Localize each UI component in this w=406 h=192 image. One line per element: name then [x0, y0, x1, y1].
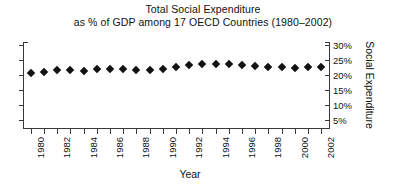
- data-point: [93, 65, 101, 73]
- data-point: [66, 66, 74, 74]
- x-axis-tick: [84, 129, 85, 134]
- data-point: [264, 62, 272, 70]
- data-point: [304, 63, 312, 71]
- x-axis-tick: [150, 129, 151, 134]
- data-point: [53, 66, 61, 74]
- y-axis-tick-label: 30%: [333, 40, 352, 51]
- y-axis-tick-label: 15%: [333, 85, 352, 96]
- x-axis-tick: [216, 129, 217, 134]
- x-axis-tick: [31, 129, 32, 134]
- data-point: [211, 59, 219, 67]
- x-axis-tick: [268, 129, 269, 134]
- x-axis-tick-label: 1990: [167, 137, 178, 158]
- x-axis-tick: [295, 129, 296, 134]
- data-point: [40, 67, 48, 75]
- data-point: [251, 62, 259, 70]
- data-point: [27, 69, 35, 77]
- x-axis-tick: [110, 129, 111, 134]
- data-point: [277, 63, 285, 71]
- chart-title-line-1: Total Social Expenditure: [0, 3, 406, 16]
- x-axis-tick-label: 1984: [88, 137, 99, 158]
- x-axis-tick: [202, 129, 203, 134]
- x-axis-title: Year: [0, 168, 380, 180]
- chart-figure: Total Social Expenditure as % of GDP amo…: [0, 0, 406, 192]
- y-axis-tick-label: 10%: [333, 100, 352, 111]
- data-point: [145, 66, 153, 74]
- x-axis-tick-label: 1998: [272, 137, 283, 158]
- data-point: [238, 61, 246, 69]
- data-point: [198, 60, 206, 68]
- data-point: [225, 60, 233, 68]
- x-axis-tick: [57, 129, 58, 134]
- x-axis-tick: [70, 129, 71, 134]
- x-axis-tick: [123, 129, 124, 134]
- x-axis-tick-label: 1988: [140, 137, 151, 158]
- data-point: [106, 65, 114, 73]
- chart-title: Total Social Expenditure as % of GDP amo…: [0, 3, 406, 29]
- x-axis-tick: [136, 129, 137, 134]
- data-point: [119, 65, 127, 73]
- x-axis-tick-label: 2002: [325, 137, 336, 158]
- x-axis-tick: [176, 129, 177, 134]
- x-axis-tick: [321, 129, 322, 134]
- x-axis-tick: [255, 129, 256, 134]
- chart-title-line-2: as % of GDP among 17 OECD Countries (198…: [0, 16, 406, 29]
- data-point: [290, 64, 298, 72]
- x-axis-tick: [308, 129, 309, 134]
- y-axis-tick-label: 25%: [333, 55, 352, 66]
- x-axis-tick-label: 1994: [220, 137, 231, 158]
- x-axis-tick: [97, 129, 98, 134]
- y-axis-tick-label: 20%: [333, 70, 352, 81]
- x-axis-tick: [163, 129, 164, 134]
- data-point: [172, 63, 180, 71]
- y-axis-title: Social Expenditure: [364, 41, 376, 129]
- x-axis-tick: [242, 129, 243, 134]
- x-axis-tick: [282, 129, 283, 134]
- x-axis-tick: [44, 129, 45, 134]
- y-axis-tick-label: 5%: [333, 115, 347, 126]
- x-axis-tick: [229, 129, 230, 134]
- x-axis-tick: [189, 129, 190, 134]
- data-point: [132, 66, 140, 74]
- data-point: [185, 61, 193, 69]
- x-axis-tick-label: 1980: [35, 137, 46, 158]
- data-point: [317, 63, 325, 71]
- x-axis-tick-label: 1986: [114, 137, 125, 158]
- x-axis-tick-label: 1982: [61, 137, 72, 158]
- x-axis-tick-label: 1996: [246, 137, 257, 158]
- y-axis-right-spine: [329, 42, 330, 129]
- data-point: [159, 65, 167, 73]
- data-points-layer: [23, 42, 329, 129]
- data-point: [79, 66, 87, 74]
- x-axis-tick-label: 1992: [193, 137, 204, 158]
- x-axis-tick-label: 2000: [299, 137, 310, 158]
